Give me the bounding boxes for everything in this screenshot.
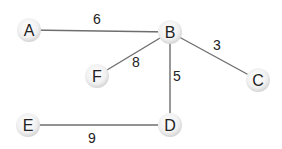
node-label: F: [92, 68, 102, 85]
edge-weight-label: 3: [213, 37, 221, 53]
edge-a-b: [29, 30, 170, 32]
node-b: B: [158, 20, 182, 44]
edge-weight-label: 8: [132, 54, 140, 70]
node-label: B: [165, 24, 176, 41]
edge-weight-label: 6: [93, 11, 101, 27]
node-label: D: [164, 117, 176, 134]
node-label: E: [23, 117, 34, 134]
edges-group: 68359: [28, 11, 258, 146]
edge-weight-label: 9: [88, 130, 96, 146]
node-label: C: [252, 72, 264, 89]
edge-weight-label: 5: [173, 68, 181, 84]
node-c: C: [246, 68, 270, 92]
node-e: E: [16, 113, 40, 137]
node-f: F: [85, 64, 109, 88]
node-label: A: [24, 22, 35, 39]
nodes-group: ABCDEF: [16, 18, 270, 137]
graph-canvas: 68359 ABCDEF: [0, 0, 282, 149]
node-d: D: [158, 113, 182, 137]
node-a: A: [17, 18, 41, 42]
